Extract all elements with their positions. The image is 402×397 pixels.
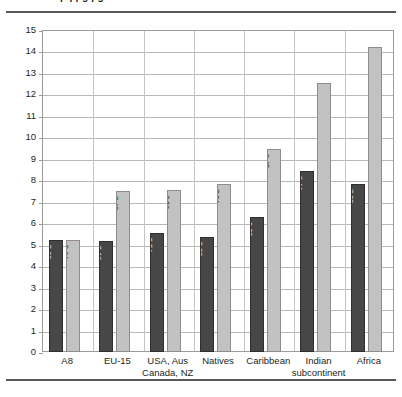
y-axis-label: 6 xyxy=(0,218,36,228)
y-axis-label: 1 xyxy=(0,326,36,336)
gridline-horizontal xyxy=(43,181,393,182)
y-axis-label: 12 xyxy=(0,90,36,100)
y-axis-label: 5 xyxy=(0,240,36,250)
gridline-horizontal xyxy=(43,332,393,333)
y-axis-tick xyxy=(39,353,43,354)
gridline-horizontal xyxy=(43,52,393,53)
y-axis-tick xyxy=(39,224,43,225)
y-axis-tick xyxy=(39,138,43,139)
y-axis-label: 13 xyxy=(0,68,36,78)
gridline-horizontal xyxy=(43,289,393,290)
y-axis-label: 4 xyxy=(0,261,36,271)
y-axis-label: 3 xyxy=(0,283,36,293)
x-axis-category-line: Canada, NZ xyxy=(135,367,201,379)
gridline-vertical xyxy=(345,31,346,351)
gridline-vertical xyxy=(244,31,245,351)
y-axis-tick xyxy=(39,267,43,268)
y-axis-label: 9 xyxy=(0,154,36,164)
x-axis-labels: A8EU-15USA, AusCanada, NZNativesCaribbea… xyxy=(42,355,394,391)
y-axis-label: 14 xyxy=(0,47,36,57)
y-axis-label: 2 xyxy=(0,304,36,314)
y-axis-label: 10 xyxy=(0,133,36,143)
x-axis-category-line: subcontinent xyxy=(285,367,351,379)
top-rule-divider xyxy=(6,11,396,13)
gridline-horizontal xyxy=(43,117,393,118)
bottom-rule-divider xyxy=(6,379,396,381)
gridline-horizontal xyxy=(43,138,393,139)
gridline-horizontal xyxy=(43,224,393,225)
gridline-horizontal xyxy=(43,74,393,75)
gridline-horizontal xyxy=(43,160,393,161)
y-axis-tick xyxy=(39,181,43,182)
gridline-vertical xyxy=(144,31,145,351)
x-axis-category-line: Africa xyxy=(336,355,402,367)
y-axis-label: 7 xyxy=(0,197,36,207)
y-axis-tick xyxy=(39,95,43,96)
y-axis-label: 15 xyxy=(0,25,36,35)
y-axis-label: 8 xyxy=(0,176,36,186)
gridline-horizontal xyxy=(43,310,393,311)
bar-chart-figure: 5.205.245.167.485.547.565.387.846.299.45… xyxy=(0,14,402,397)
x-axis-category-label: Africa xyxy=(336,355,402,367)
y-axis-tick xyxy=(39,117,43,118)
gridline-horizontal xyxy=(43,246,393,247)
y-axis-tick xyxy=(39,74,43,75)
y-axis-tick xyxy=(39,160,43,161)
gridline-vertical xyxy=(294,31,295,351)
y-axis-tick xyxy=(39,289,43,290)
y-axis-tick xyxy=(39,52,43,53)
gridline-horizontal xyxy=(43,203,393,204)
gridline-vertical xyxy=(93,31,94,351)
y-axis-tick xyxy=(39,31,43,32)
cutoff-title-text: pq pg pg xyxy=(60,0,104,2)
y-axis-label: 11 xyxy=(0,111,36,121)
y-axis-tick xyxy=(39,310,43,311)
y-axis-tick xyxy=(39,246,43,247)
gridline-horizontal xyxy=(43,95,393,96)
gridline-horizontal xyxy=(43,267,393,268)
y-axis-tick xyxy=(39,332,43,333)
gridline-vertical xyxy=(194,31,195,351)
y-axis-tick xyxy=(39,203,43,204)
y-axis-label: 0 xyxy=(0,347,36,357)
plot-area xyxy=(42,30,394,352)
